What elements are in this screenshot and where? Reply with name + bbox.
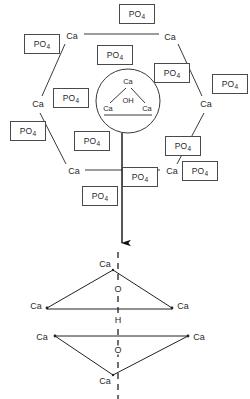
po4-text: PO [129,9,142,19]
po4-subscript: 4 [234,83,238,90]
po4-box-lower-left: PO4 [74,131,110,151]
tick-left-down [54,335,57,338]
tick-right-up [171,307,174,310]
po4-text: PO [192,166,205,176]
diagram-canvas: Ca Ca Ca Ca Ca Ca Ca Ca Ca OH PO4 PO4 PO… [0,0,250,399]
po4-subscript: 4 [141,13,145,20]
po4-subscript: 4 [75,97,79,104]
po4-box-upper-right: PO4 [154,63,190,83]
tick-left-up [46,307,49,310]
po4-subscript: 4 [46,43,50,50]
atom-o-upper: O [113,285,122,294]
po4-text: PO [63,93,76,103]
atom-ca-top-right: Ca [163,33,177,42]
po4-text: PO [164,68,177,78]
po4-box-top: PO4 [119,4,155,24]
tick-right-down [187,335,190,338]
atom-ca-upper-tri-right: Ca [176,302,190,311]
atom-ca-center-lower-left: Ca [102,105,114,113]
po4-box-bottom: PO4 [82,186,118,206]
po4-box-center-low: PO4 [122,167,158,187]
po4-box-upper-left: PO4 [24,34,60,54]
atom-ca-center-lower-right: Ca [141,105,153,113]
atom-ca-upper-tri-apex: Ca [98,260,112,269]
lower-triangle-edges [55,336,188,375]
po4-text: PO [107,50,120,60]
po4-subscript: 4 [204,170,208,177]
atom-ca-bottom-right: Ca [165,167,179,176]
po4-box-bottom-right: PO4 [182,161,218,181]
atom-ca-lower-tri-left: Ca [35,333,49,342]
atom-ca-bottom-left: Ca [67,167,81,176]
po4-subscript: 4 [119,54,123,61]
po4-subscript: 4 [96,140,100,147]
atom-o-lower: O [113,346,122,355]
lower-tri-left-edge [55,336,113,375]
po4-box-left-inner: PO4 [53,88,89,108]
po4-subscript: 4 [144,176,148,183]
po4-text: PO [20,126,33,136]
po4-text: PO [84,136,97,146]
tick-apex-down [112,374,114,376]
atom-oh-center: OH [121,97,134,105]
po4-box-far-left: PO4 [10,121,46,141]
atom-h-bond: H [114,316,123,325]
atom-ca-top-left: Ca [65,32,79,41]
po4-text: PO [222,79,235,89]
po4-subscript: 4 [187,145,191,152]
atom-ca-lower-tri-right: Ca [192,333,206,342]
po4-text: PO [175,141,188,151]
upper-triangle-edges [47,270,172,309]
po4-box-lower-right: PO4 [165,136,201,156]
po4-box-upper-mid: PO4 [97,45,133,65]
po4-text: PO [92,191,105,201]
atom-ca-center-apex: Ca [122,78,134,86]
tick-apex-up [112,269,114,271]
po4-text: PO [34,39,47,49]
atom-ca-lower-tri-apex: Ca [98,377,112,386]
lower-tri-right-edge [113,336,188,375]
upper-tri-left-edge [47,270,113,308]
atom-ca-upper-tri-left: Ca [29,302,43,311]
atom-ca-mid-left: Ca [31,100,45,109]
po4-subscript: 4 [104,195,108,202]
po4-subscript: 4 [32,130,36,137]
po4-text: PO [132,172,145,182]
po4-box-far-right: PO4 [212,74,248,94]
atom-ca-mid-right: Ca [199,100,213,109]
po4-subscript: 4 [176,72,180,79]
